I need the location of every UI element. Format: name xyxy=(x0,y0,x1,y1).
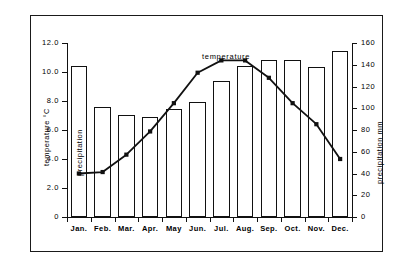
left-tick xyxy=(62,130,67,131)
left-tick-label: 8.0 xyxy=(47,97,59,105)
temperature-marker xyxy=(338,157,342,161)
right-tick xyxy=(352,195,357,196)
right-tick-label: 40 xyxy=(361,170,371,178)
left-tick xyxy=(62,101,67,102)
month-tick xyxy=(210,217,211,222)
temperature-annotation: temperature xyxy=(202,52,250,61)
month-label-may: May xyxy=(162,225,186,233)
temperature-marker xyxy=(314,122,318,126)
month-label-aug: Aug. xyxy=(233,225,257,233)
left-tick-label: 2.0 xyxy=(47,184,59,192)
right-tick-label: 100 xyxy=(361,104,375,112)
month-tick xyxy=(115,217,116,222)
temperature-marker xyxy=(101,170,105,174)
right-tick-label: 120 xyxy=(361,83,375,91)
left-axis-title: temperature °C xyxy=(43,108,51,166)
month-label-oct: Oct. xyxy=(281,225,305,233)
temperature-line-series xyxy=(67,43,352,217)
right-tick-label: 160 xyxy=(361,39,375,47)
month-tick xyxy=(305,217,306,222)
left-tick-label: 10.0 xyxy=(42,68,59,76)
temperature-marker xyxy=(267,76,271,80)
month-tick xyxy=(281,217,282,222)
left-tick xyxy=(62,72,67,73)
temperature-marker xyxy=(196,71,200,75)
month-label-mar: Mar. xyxy=(115,225,139,233)
left-tick-label: 12.0 xyxy=(42,39,59,47)
right-tick xyxy=(352,65,357,66)
month-label-jun: Jun. xyxy=(186,225,210,233)
left-tick xyxy=(62,43,67,44)
month-tick xyxy=(91,217,92,222)
plot-area: 02.04.06.08.010.012.0 020406080100120140… xyxy=(67,43,352,217)
right-tick-label: 20 xyxy=(361,191,371,199)
month-tick xyxy=(138,217,139,222)
month-label-jan: Jan. xyxy=(67,225,91,233)
temperature-polyline xyxy=(79,60,340,173)
month-tick xyxy=(233,217,234,222)
right-tick-label: 80 xyxy=(361,126,371,134)
month-label-sep: Sep. xyxy=(257,225,281,233)
chart-frame: 02.04.06.08.010.012.0 020406080100120140… xyxy=(30,15,383,252)
month-label-dec: Dec. xyxy=(328,225,352,233)
month-label-nov: Nov. xyxy=(305,225,329,233)
month-label-feb: Feb. xyxy=(91,225,115,233)
month-tick xyxy=(186,217,187,222)
right-tick xyxy=(352,174,357,175)
month-tick xyxy=(352,217,353,222)
right-axis-title: precipitation mm xyxy=(376,121,384,184)
right-tick-label: 60 xyxy=(361,148,371,156)
month-tick xyxy=(328,217,329,222)
month-label-apr: Apr. xyxy=(138,225,162,233)
left-tick-label: 0 xyxy=(54,213,59,221)
left-tick xyxy=(62,159,67,160)
left-tick xyxy=(62,188,67,189)
month-label-jul: Jul. xyxy=(210,225,234,233)
month-tick xyxy=(67,217,68,222)
right-tick xyxy=(352,87,357,88)
temperature-marker xyxy=(172,101,176,105)
right-tick xyxy=(352,152,357,153)
right-tick xyxy=(352,43,357,44)
right-tick xyxy=(352,130,357,131)
right-tick-label: 140 xyxy=(361,61,375,69)
temperature-marker xyxy=(291,101,295,105)
month-tick xyxy=(162,217,163,222)
month-tick xyxy=(257,217,258,222)
precipitation-annotation: precipitation xyxy=(76,129,84,176)
temperature-marker xyxy=(124,153,128,157)
temperature-marker xyxy=(148,129,152,133)
right-tick xyxy=(352,108,357,109)
right-tick-label: 0 xyxy=(361,213,366,221)
